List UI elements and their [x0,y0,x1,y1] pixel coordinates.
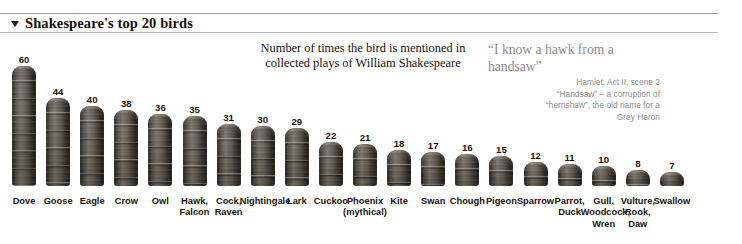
bar-shape[interactable] [319,142,343,186]
bar-value-label: 8 [635,158,640,169]
bar-shape[interactable] [353,144,377,186]
bar-shape[interactable] [114,110,138,186]
bar-column[interactable]: 7Swallow [655,160,689,186]
bar-value-label: 17 [428,140,439,151]
bar-value-label: 12 [530,150,541,161]
bar-column[interactable]: 31Cock,Raven [212,112,246,186]
bar-column[interactable]: 35Hawk,Falcon [178,104,212,186]
bar-shape[interactable] [626,170,650,186]
bar-column[interactable]: 12Sparrow [519,150,553,186]
bar-column[interactable]: 8Vulture,Rook,Daw [621,158,655,186]
bar-shape[interactable] [183,116,207,186]
bar-label-line: Swallow [649,196,695,207]
bar-shape[interactable] [46,98,70,186]
bar-value-label: 36 [155,102,166,113]
bar-column[interactable]: 38Crow [109,98,143,186]
bar-column[interactable]: 11Parrot,Duck [553,152,587,186]
bar-label-line: Daw [615,219,661,230]
bar-shape[interactable] [660,172,684,186]
bar-shape[interactable] [558,164,582,186]
bar-shape[interactable] [421,152,445,186]
bar-shape[interactable] [80,106,104,186]
bar-value-label: 7 [669,160,674,171]
bar-value-label: 60 [19,54,30,65]
bar-column[interactable]: 10Gull,Woodcock,Wren [587,154,621,186]
bar-column[interactable]: 30Nightingale [246,114,280,186]
bar-shape[interactable] [217,124,241,186]
bar-shape[interactable] [251,126,275,186]
bar-label-line: (mythical) [342,207,388,218]
bar-shape[interactable] [285,128,309,186]
bar-column[interactable]: 16Chough [450,142,484,186]
bar-column[interactable]: 29Lark [280,116,314,186]
bar-column[interactable]: 15Pigeon [484,144,518,186]
bar-column[interactable]: 60Dove [7,54,41,186]
bar-column[interactable]: 22Cuckoo [314,130,348,186]
bar-shape[interactable] [524,162,548,186]
bar-value-label: 15 [496,144,507,155]
bar-label-line: Raven [206,207,252,218]
bar-column[interactable]: 21Phoenix(mythical) [348,132,382,186]
bar-value-label: 21 [360,132,371,143]
bar-value-label: 10 [598,154,609,165]
bar-column[interactable]: 18Kite [382,138,416,186]
bar-shape[interactable] [489,156,513,186]
bar-column[interactable]: 36Owl [143,102,177,186]
bar-value-label: 44 [53,86,64,97]
bar-value-label: 16 [462,142,473,153]
bar-column[interactable]: 40Eagle [75,94,109,186]
bar-column[interactable]: 17Swan [416,140,450,186]
bar-value-label: 40 [87,94,98,105]
bar-value-label: 11 [565,152,575,163]
bar-category-label: Swallow [649,196,695,207]
bar-shape[interactable] [387,150,411,186]
bar-shape[interactable] [592,166,616,186]
bar-value-label: 38 [121,98,132,109]
bar-column[interactable]: 44Goose [41,86,75,186]
bar-shape[interactable] [455,154,479,186]
bar-label-line: Rook, [615,207,661,218]
bar-value-label: 18 [394,138,405,149]
bar-shape[interactable] [12,66,36,186]
bar-value-label: 29 [291,116,302,127]
bar-value-label: 30 [257,114,268,125]
bar-value-label: 31 [223,112,234,123]
bar-shape[interactable] [148,114,172,186]
bar-value-label: 22 [326,130,337,141]
bar-chart: 60Dove44Goose40Eagle38Crow36Owl35Hawk,Fa… [0,0,742,244]
bar-value-label: 35 [189,104,200,115]
